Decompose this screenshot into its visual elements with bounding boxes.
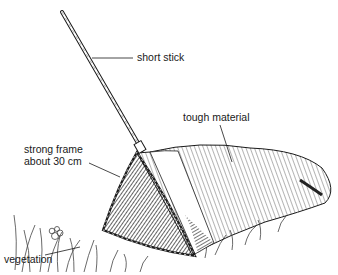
- label-vegetation: vegetation: [4, 254, 52, 265]
- label-frame-size: about 30 cm: [24, 156, 82, 167]
- label-tough-material: tough material: [183, 112, 250, 123]
- sweep-net-diagram: short stick tough material strong frame …: [0, 0, 338, 275]
- label-strong-frame: strong frame: [24, 144, 83, 155]
- label-short-stick: short stick: [137, 52, 184, 63]
- leader-strong-frame: [89, 163, 120, 177]
- net-illustration: [0, 0, 338, 275]
